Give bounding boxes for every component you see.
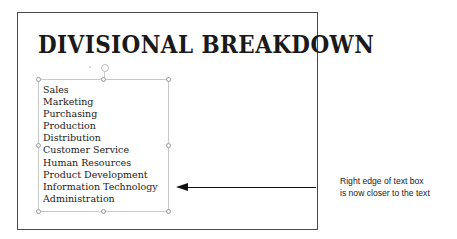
- division-list: Sales Marketing Purchasing Production Di…: [43, 84, 158, 205]
- list-item: Product Development: [43, 169, 158, 181]
- resize-handle-top-middle[interactable]: [101, 77, 106, 82]
- list-item: Distribution: [43, 132, 158, 144]
- list-item: Marketing: [43, 96, 158, 108]
- callout-annotation: Right edge of text box is now closer to …: [340, 175, 430, 199]
- resize-handle-top-left[interactable]: [36, 77, 41, 82]
- list-item: Human Resources: [43, 157, 158, 169]
- arrow-line: [186, 187, 316, 189]
- rotation-handle-icon[interactable]: [101, 64, 109, 72]
- list-item: Administration: [43, 193, 158, 205]
- callout-arrow-icon: [176, 183, 316, 191]
- resize-handle-middle-right[interactable]: [166, 143, 171, 148]
- list-item: Customer Service: [43, 144, 158, 156]
- callout-line-1: Right edge of text box: [340, 175, 430, 187]
- slide-title[interactable]: DIVISIONAL BREAKDOWN: [38, 30, 374, 59]
- resize-handle-top-right[interactable]: [166, 77, 171, 82]
- resize-handle-bottom-right[interactable]: [166, 209, 171, 214]
- list-item: Sales: [43, 84, 158, 96]
- list-item: Production: [43, 120, 158, 132]
- guide-dot: [89, 66, 91, 68]
- resize-handle-middle-left[interactable]: [36, 143, 41, 148]
- resize-handle-bottom-left[interactable]: [36, 209, 41, 214]
- list-item: Information Technology: [43, 181, 158, 193]
- callout-line-2: is now closer to the text: [340, 187, 430, 199]
- list-item: Purchasing: [43, 108, 158, 120]
- slide-canvas: DIVISIONAL BREAKDOWN Sales Marketing Pur…: [17, 12, 318, 230]
- selected-text-box[interactable]: Sales Marketing Purchasing Production Di…: [38, 79, 169, 212]
- resize-handle-bottom-middle[interactable]: [101, 209, 106, 214]
